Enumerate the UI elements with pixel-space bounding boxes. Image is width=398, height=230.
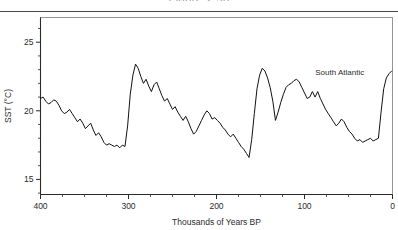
y-tick-label: 25 — [24, 37, 34, 47]
figure-page: Figure 2.30 1520254003002001000Thousands… — [0, 0, 398, 230]
x-axis-title: Thousands of Years BP — [172, 217, 261, 227]
data-series-line — [41, 64, 392, 157]
sst-line-chart: 1520254003002001000Thousands of Years BP… — [0, 0, 398, 230]
x-tick-label: 200 — [209, 201, 223, 211]
x-tick-label: 0 — [390, 201, 395, 211]
y-axis-title: SST (°C) — [3, 89, 13, 123]
series-label-south-atlantic: South Atlantic — [315, 68, 364, 77]
y-tick-label: 20 — [24, 106, 34, 116]
y-tick-label: 15 — [24, 174, 34, 184]
x-tick-label: 100 — [297, 201, 311, 211]
plot-frame — [41, 18, 393, 195]
x-tick-label: 400 — [33, 201, 47, 211]
x-tick-label: 300 — [121, 201, 135, 211]
